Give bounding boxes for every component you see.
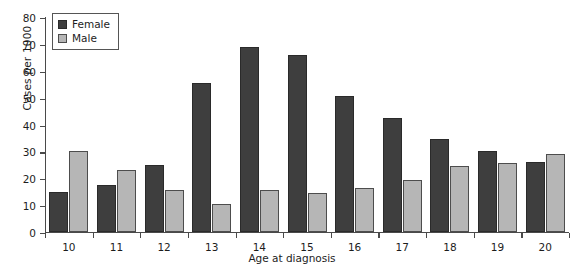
y-tick bbox=[40, 99, 45, 100]
y-tick bbox=[40, 179, 45, 180]
y-tick bbox=[40, 45, 45, 46]
y-tick-label: 60 bbox=[23, 66, 36, 78]
y-tick bbox=[40, 206, 45, 207]
bar-male-age-11 bbox=[117, 170, 136, 232]
bar-female-age-14 bbox=[240, 47, 259, 232]
y-axis-line bbox=[45, 17, 46, 233]
x-tick bbox=[236, 233, 237, 238]
bar-male-age-14 bbox=[260, 190, 279, 232]
bar-female-age-11 bbox=[97, 185, 116, 232]
legend-label-male: Male bbox=[72, 33, 97, 44]
y-tick bbox=[40, 126, 45, 127]
x-tick bbox=[569, 233, 570, 238]
legend: Female Male bbox=[52, 13, 119, 50]
x-tick bbox=[331, 233, 332, 238]
x-tick bbox=[93, 233, 94, 238]
legend-item-female: Female bbox=[58, 17, 110, 31]
x-tick bbox=[426, 233, 427, 238]
bar-female-age-18 bbox=[430, 139, 449, 232]
y-tick-label: 70 bbox=[23, 39, 36, 51]
x-tick bbox=[378, 233, 379, 238]
bar-female-age-16 bbox=[335, 96, 354, 232]
legend-swatch-female-icon bbox=[58, 20, 67, 29]
bar-female-age-12 bbox=[145, 165, 164, 232]
legend-label-female: Female bbox=[72, 19, 110, 30]
x-tick bbox=[474, 233, 475, 238]
bar-male-age-20 bbox=[546, 154, 565, 232]
bar-female-age-20 bbox=[526, 162, 545, 232]
bar-male-age-10 bbox=[69, 151, 88, 232]
bar-male-age-16 bbox=[355, 188, 374, 232]
bar-male-age-15 bbox=[308, 193, 327, 232]
bar-male-age-18 bbox=[450, 166, 469, 232]
x-axis-title: Age at diagnosis bbox=[0, 252, 584, 264]
bar-male-age-12 bbox=[165, 190, 184, 232]
y-tick-label: 40 bbox=[23, 120, 36, 132]
bar-male-age-17 bbox=[403, 180, 422, 232]
x-tick bbox=[45, 233, 46, 238]
y-tick-label: 30 bbox=[23, 146, 36, 158]
x-tick bbox=[188, 233, 189, 238]
plot-area: 01020304050607080 1011121314151617181920 bbox=[45, 17, 569, 233]
bar-male-age-13 bbox=[212, 204, 231, 232]
bar-female-age-13 bbox=[192, 83, 211, 232]
x-tick bbox=[140, 233, 141, 238]
y-tick-label: 0 bbox=[29, 227, 36, 239]
x-axis-line bbox=[45, 232, 569, 233]
bar-chart: Cases per 1000 01020304050607080 1011121… bbox=[0, 0, 584, 278]
x-tick bbox=[521, 233, 522, 238]
y-tick bbox=[40, 18, 45, 19]
y-tick-label: 20 bbox=[23, 173, 36, 185]
bar-male-age-19 bbox=[498, 163, 517, 232]
y-tick-label: 50 bbox=[23, 93, 36, 105]
bar-female-age-19 bbox=[478, 151, 497, 232]
bar-female-age-15 bbox=[288, 55, 307, 232]
bar-female-age-10 bbox=[49, 192, 68, 232]
y-tick bbox=[40, 72, 45, 73]
y-tick-label: 10 bbox=[23, 200, 36, 212]
legend-swatch-male-icon bbox=[58, 34, 67, 43]
y-tick bbox=[40, 152, 45, 153]
y-tick-label: 80 bbox=[23, 12, 36, 24]
x-tick bbox=[283, 233, 284, 238]
legend-item-male: Male bbox=[58, 31, 110, 45]
bar-female-age-17 bbox=[383, 118, 402, 232]
